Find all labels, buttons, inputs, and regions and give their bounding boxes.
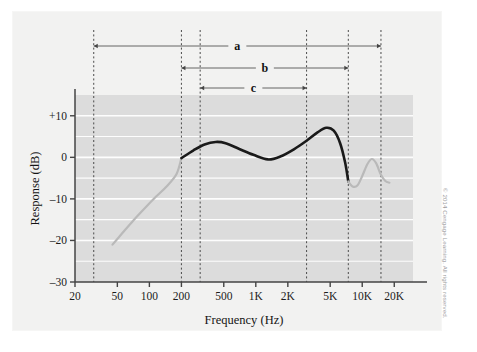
- bracket-arrow-left-icon: [200, 86, 204, 90]
- x-axis-tick-label: 20: [69, 290, 81, 302]
- x-axis-tick-label: 1K: [249, 290, 264, 302]
- x-axis-tick-label: 50: [112, 290, 124, 302]
- bracket-arrow-right-icon: [344, 66, 348, 70]
- y-axis-tick-label: –30: [49, 276, 68, 288]
- x-axis-tick-label: 500: [215, 290, 233, 302]
- x-axis-tick-label: 10K: [352, 290, 373, 302]
- x-axis-title: Frequency (Hz): [205, 313, 284, 327]
- y-axis-tick-label: +10: [49, 110, 67, 122]
- copyright-notice: © 2014 Cengage Learning. All rights rese…: [442, 188, 449, 328]
- x-axis-tick-label: 20K: [384, 290, 405, 302]
- x-axis-tick-label: 100: [141, 290, 159, 302]
- bracket-b: b: [181, 61, 348, 75]
- bracket-c: c: [200, 81, 306, 95]
- x-axis-tick-label: 5K: [323, 290, 338, 302]
- figure-card: –30–20–100+1020501002005001K2K5K10K20KFr…: [13, 12, 441, 330]
- y-axis-title: Response (dB): [28, 152, 42, 226]
- bracket-arrow-left-icon: [94, 44, 98, 48]
- bracket-arrow-left-icon: [181, 66, 185, 70]
- bracket-label: c: [251, 81, 257, 95]
- bracket-arrow-right-icon: [303, 86, 307, 90]
- bracket-label: a: [234, 39, 240, 53]
- x-axis-tick-label: 200: [173, 290, 191, 302]
- frequency-response-chart: –30–20–100+1020501002005001K2K5K10K20KFr…: [13, 12, 441, 330]
- y-axis-tick-label: –10: [49, 193, 68, 205]
- y-axis-tick-label: 0: [61, 151, 67, 163]
- plot-background: [75, 95, 413, 282]
- bracket-label: b: [262, 61, 269, 75]
- bracket-a: a: [94, 39, 381, 53]
- x-axis-tick-label: 2K: [281, 290, 296, 302]
- bracket-arrow-right-icon: [377, 44, 381, 48]
- y-axis-tick-label: –20: [49, 234, 68, 246]
